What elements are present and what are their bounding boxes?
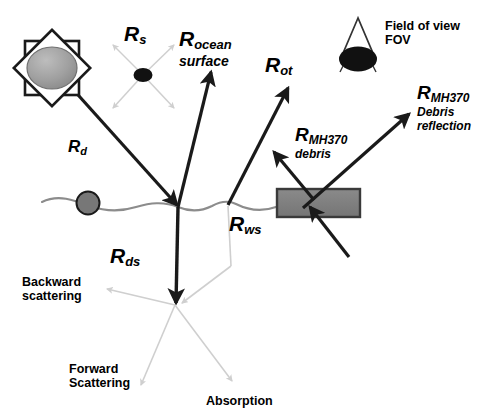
label-r-d-sub: d	[80, 145, 87, 157]
label-r-ds-sub: ds	[125, 254, 140, 269]
label-field-of-view: Field of view FOV	[385, 19, 460, 47]
label-r-ws-main: R	[229, 212, 244, 235]
label-r-d-main: R	[68, 137, 80, 156]
field-of-view-cone-icon	[339, 18, 377, 72]
label-r-ocean-surface: Rocean surface	[179, 27, 232, 69]
label-backward-scattering-line2: scattering	[22, 289, 82, 303]
label-r-mh370-reflection-line2: Debris reflection	[417, 106, 481, 133]
ray-r-ocean-surface	[178, 72, 211, 207]
label-r-s: Rs	[124, 22, 146, 48]
scattering-particle-icon	[134, 68, 153, 82]
ray-rws-water-scatter	[182, 206, 231, 303]
label-r-ocean-surface-sub: ocean	[194, 37, 232, 52]
label-r-ds-main: R	[110, 244, 125, 267]
label-field-of-view-line2: FOV	[385, 33, 460, 47]
label-r-ocean-surface-line2: surface	[179, 54, 232, 70]
label-r-ot: Rot	[265, 53, 292, 79]
label-r-mh370-debris: RMH370 debris	[295, 124, 347, 162]
diagram-vector-layer	[0, 0, 486, 419]
floating-object-icon	[77, 192, 100, 215]
label-backward-scattering: Backward scattering	[22, 275, 82, 303]
ray-rot-ocean-total	[228, 88, 288, 205]
label-absorption-line1: Absorption	[206, 394, 273, 408]
label-r-ot-main: R	[265, 53, 280, 76]
ray-rds-downward-scatter	[176, 207, 178, 303]
label-forward-scattering: Forward Scattering	[69, 362, 130, 390]
diagram-canvas: Rs Rocean surface Rot Rd Rds Rws RMH370 …	[0, 0, 486, 419]
label-r-mh370-reflection-main: R	[417, 82, 431, 103]
label-field-of-view-line1: Field of view	[385, 19, 460, 33]
label-r-mh370-debris-sub: MH370	[309, 133, 348, 147]
label-r-ot-sub: ot	[280, 63, 292, 78]
label-r-ws-sub: ws	[244, 222, 261, 237]
label-r-mh370-debris-main: R	[295, 124, 309, 145]
label-backward-scattering-line1: Backward	[22, 275, 81, 289]
label-r-mh370-reflection-sub: MH370	[431, 91, 470, 105]
label-r-ocean-surface-main: R	[179, 27, 194, 50]
label-forward-scattering-line2: Scattering	[69, 376, 130, 390]
label-r-s-sub: s	[139, 32, 146, 47]
label-r-mh370-debris-line2: debris	[295, 148, 347, 161]
label-r-ds: Rds	[110, 244, 140, 270]
label-r-mh370-debris-reflection: RMH370 Debris reflection	[417, 82, 481, 133]
label-r-d: Rd	[68, 137, 87, 157]
label-forward-scattering-line1: Forward	[69, 362, 118, 376]
scattering-star-rs	[113, 45, 174, 108]
label-r-ws: Rws	[229, 212, 262, 238]
label-r-s-main: R	[124, 22, 139, 45]
label-absorption: Absorption	[206, 394, 273, 408]
sun-icon	[14, 30, 90, 106]
